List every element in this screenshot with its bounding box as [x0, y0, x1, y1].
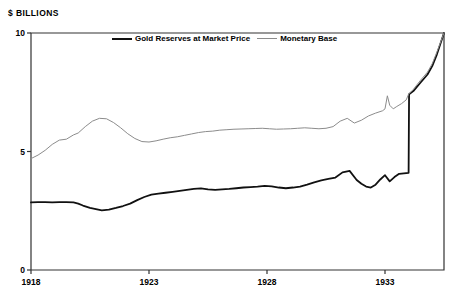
plot-area — [0, 0, 463, 301]
x-tick-label: 1923 — [129, 277, 169, 287]
legend-label-monetary-base: Monetary Base — [280, 34, 337, 43]
y-tick-label: 0 — [3, 265, 25, 275]
legend-swatch-monetary-base — [257, 38, 277, 39]
chart-legend: Gold Reserves at Market Price Monetary B… — [112, 34, 337, 43]
axes — [31, 33, 444, 270]
y-tick-label: 5 — [3, 147, 25, 157]
legend-label-gold-reserves: Gold Reserves at Market Price — [135, 34, 250, 43]
x-tick-label: 1933 — [365, 277, 405, 287]
x-tick-label: 1928 — [247, 277, 287, 287]
x-tick-label: 1918 — [11, 277, 51, 287]
y-tick-label: 10 — [3, 28, 25, 38]
chart-figure: $ BILLIONS Gold Reserves at Market Price… — [0, 0, 463, 301]
legend-swatch-gold-reserves — [112, 38, 132, 40]
legend-entry-monetary-base: Monetary Base — [257, 34, 337, 43]
series-line-gold-reserves-at-market-price — [31, 33, 444, 210]
legend-entry-gold-reserves: Gold Reserves at Market Price — [112, 34, 250, 43]
y-axis-units-label: $ BILLIONS — [8, 8, 59, 18]
axis-frame — [31, 33, 444, 270]
data-series — [31, 33, 444, 210]
series-line-monetary-base — [31, 33, 444, 159]
